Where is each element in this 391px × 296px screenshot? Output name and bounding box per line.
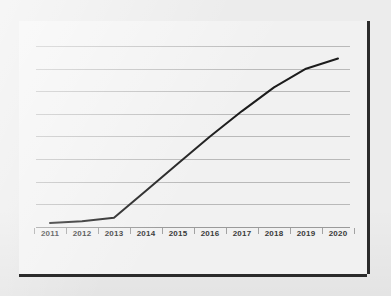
series-line-trend bbox=[50, 59, 338, 223]
chart-page: 2011201220132014201520162017201820192020 bbox=[0, 0, 391, 296]
x-axis-labels-group: 2011201220132014201520162017201820192020 bbox=[36, 229, 350, 247]
series-line-chart bbox=[36, 45, 350, 228]
chart-card: 2011201220132014201520162017201820192020 bbox=[19, 21, 367, 274]
x-axis-label: 2020 bbox=[318, 229, 358, 238]
plot-area bbox=[36, 45, 350, 228]
x-axis-line bbox=[36, 227, 350, 228]
